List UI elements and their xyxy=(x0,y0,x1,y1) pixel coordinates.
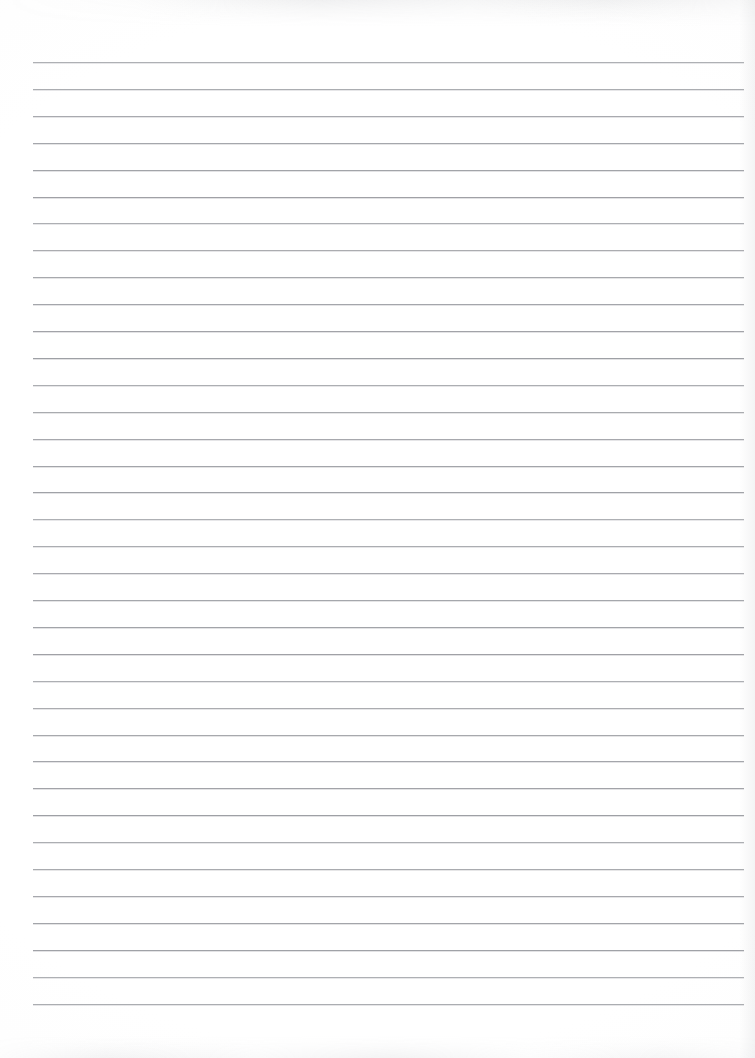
writing-line-slot[interactable] xyxy=(33,38,744,64)
rule-line xyxy=(33,466,744,467)
rule-line xyxy=(33,600,744,601)
writing-line-slot[interactable] xyxy=(33,764,744,790)
rule-line xyxy=(33,573,744,574)
writing-line-slot[interactable] xyxy=(33,791,744,817)
rule-line xyxy=(33,170,744,171)
writing-line-slot[interactable] xyxy=(33,442,744,468)
rule-line xyxy=(33,439,744,440)
writing-line-slot[interactable] xyxy=(33,684,744,710)
rule-line xyxy=(33,869,744,870)
rule-line xyxy=(33,977,744,978)
rule-line xyxy=(33,950,744,951)
writing-line-slot[interactable] xyxy=(33,899,744,925)
rule-line xyxy=(33,788,744,789)
rule-line xyxy=(33,842,744,843)
rule-line xyxy=(33,492,744,493)
writing-line-slot[interactable] xyxy=(33,92,744,118)
rule-line xyxy=(33,358,744,359)
writing-line-slot[interactable] xyxy=(33,872,744,898)
rule-line xyxy=(33,143,744,144)
rule-line xyxy=(33,815,744,816)
rule-line xyxy=(33,627,744,628)
rule-line xyxy=(33,304,744,305)
rule-line xyxy=(33,654,744,655)
rule-line xyxy=(33,923,744,924)
writing-line-slot[interactable] xyxy=(33,711,744,737)
writing-line-slot[interactable] xyxy=(33,65,744,91)
rule-line xyxy=(33,735,744,736)
writing-line-slot[interactable] xyxy=(33,980,744,1006)
rule-line xyxy=(33,116,744,117)
writing-line-slot[interactable] xyxy=(33,173,744,199)
writing-line-slot[interactable] xyxy=(33,388,744,414)
rule-line xyxy=(33,708,744,709)
writing-line-slot[interactable] xyxy=(33,119,744,145)
writing-line-slot[interactable] xyxy=(33,549,744,575)
writing-line-slot[interactable] xyxy=(33,415,744,441)
writing-line-slot[interactable] xyxy=(33,253,744,279)
rule-line xyxy=(33,1004,744,1005)
writing-line-slot[interactable] xyxy=(33,818,744,844)
rule-line xyxy=(33,277,744,278)
writing-line-slot[interactable] xyxy=(33,200,744,226)
rule-line xyxy=(33,89,744,90)
writing-line-slot[interactable] xyxy=(33,361,744,387)
rule-line xyxy=(33,546,744,547)
rule-line xyxy=(33,223,744,224)
rule-line xyxy=(33,385,744,386)
writing-line-slot[interactable] xyxy=(33,576,744,602)
rule-line xyxy=(33,761,744,762)
writing-line-slot[interactable] xyxy=(33,226,744,252)
rule-line xyxy=(33,331,744,332)
rule-line xyxy=(33,896,744,897)
scanned-page xyxy=(0,0,755,1058)
writing-line-slot[interactable] xyxy=(33,469,744,495)
writing-line-slot[interactable] xyxy=(33,953,744,979)
writing-line-slot[interactable] xyxy=(33,307,744,333)
writing-line-slot[interactable] xyxy=(33,522,744,548)
rule-line xyxy=(33,519,744,520)
writing-line-slot[interactable] xyxy=(33,280,744,306)
writing-line-slot[interactable] xyxy=(33,630,744,656)
rule-line xyxy=(33,250,744,251)
writing-line-slot[interactable] xyxy=(33,603,744,629)
rule-line xyxy=(33,412,744,413)
writing-line-slot[interactable] xyxy=(33,146,744,172)
writing-line-slot[interactable] xyxy=(33,495,744,521)
writing-line-slot[interactable] xyxy=(33,657,744,683)
writing-line-slot[interactable] xyxy=(33,926,744,952)
rule-line xyxy=(33,197,744,198)
rule-line xyxy=(33,62,744,63)
writing-line-slot[interactable] xyxy=(33,334,744,360)
writing-line-slot[interactable] xyxy=(33,738,744,764)
writing-line-slot[interactable] xyxy=(33,845,744,871)
ruled-writing-area[interactable] xyxy=(0,0,755,1058)
rule-line xyxy=(33,681,744,682)
